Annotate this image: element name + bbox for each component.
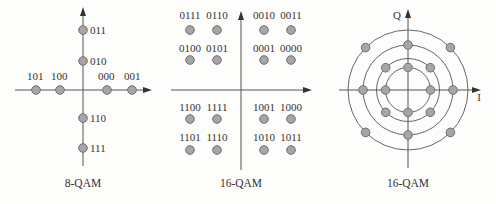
arrow-up-icon <box>80 7 86 16</box>
constellation-point <box>213 146 222 155</box>
point-label: 0000 <box>280 42 303 54</box>
point-label: 1010 <box>253 131 276 143</box>
point-label: 000 <box>98 70 115 82</box>
point-label: 101 <box>27 70 44 82</box>
arrow-up-icon <box>238 11 244 20</box>
arrow-right-icon <box>303 87 312 93</box>
diagram-16qam-circular: Q I 16-QAM <box>339 9 481 189</box>
point-label: 110 <box>90 112 107 124</box>
constellation-point <box>213 26 222 35</box>
arrow-up-icon <box>405 9 411 18</box>
constellation-point <box>359 86 368 95</box>
constellation-point <box>404 63 413 72</box>
constellation-point <box>287 26 296 35</box>
constellation-point <box>79 57 88 66</box>
constellation-point <box>186 146 195 155</box>
constellation-point <box>426 63 435 72</box>
constellation-point <box>287 115 296 124</box>
point-label: 111 <box>90 142 106 154</box>
constellation-point <box>79 26 88 35</box>
point-label: 010 <box>90 55 107 67</box>
diagram-caption: 8-QAM <box>65 177 101 189</box>
point-label: 0001 <box>253 42 275 54</box>
point-label: 0010 <box>253 9 276 21</box>
constellation-point <box>128 86 137 95</box>
constellation-point <box>446 43 455 52</box>
constellation-point <box>260 146 269 155</box>
constellation-point <box>213 56 222 65</box>
arrow-right-icon <box>143 87 152 93</box>
constellation-point <box>79 144 88 153</box>
constellation-point <box>56 86 65 95</box>
q-axis-label: Q <box>393 9 401 21</box>
point-label: 1110 <box>206 131 228 143</box>
constellation-point <box>287 56 296 65</box>
constellation-point <box>213 115 222 124</box>
constellation-point <box>260 26 269 35</box>
constellation-point <box>426 86 435 95</box>
point-label: 1111 <box>207 101 228 113</box>
point-label: 1101 <box>179 131 201 143</box>
point-label: 100 <box>51 70 68 82</box>
constellation-point <box>260 115 269 124</box>
constellation-point <box>32 86 41 95</box>
constellation-point <box>79 114 88 123</box>
point-label: 0011 <box>280 9 302 21</box>
constellation-point <box>404 41 413 50</box>
constellation-point <box>381 108 390 117</box>
diagram-8qam: 011 010 101 100 000 001 110 111 8-QAM <box>15 7 152 189</box>
point-label: 0100 <box>179 42 202 54</box>
constellation-point <box>404 108 413 117</box>
diagram-16qam-square: 0111 0110 0010 0011 0100 0101 0001 0000 … <box>171 9 312 189</box>
constellation-point <box>260 56 269 65</box>
constellation-point <box>381 86 390 95</box>
point-label: 0110 <box>206 9 228 21</box>
point-label: 1000 <box>280 101 303 113</box>
diagram-caption: 16-QAM <box>387 177 429 189</box>
point-label: 1011 <box>280 131 302 143</box>
point-label: 011 <box>90 24 106 36</box>
constellation-point <box>381 63 390 72</box>
constellation-point <box>103 86 112 95</box>
i-axis-label: I <box>477 91 481 103</box>
point-label: 1100 <box>179 101 201 113</box>
diagram-caption: 16-QAM <box>220 177 262 189</box>
point-label: 0111 <box>179 9 200 21</box>
constellation-point <box>426 108 435 117</box>
point-label: 0101 <box>206 42 228 54</box>
constellation-point <box>186 56 195 65</box>
constellation-point <box>404 131 413 140</box>
point-label: 1001 <box>253 101 275 113</box>
constellation-point <box>446 128 455 137</box>
point-label: 001 <box>124 70 141 82</box>
constellation-point <box>361 128 370 137</box>
constellation-figure: 011 010 101 100 000 001 110 111 8-QAM 01… <box>0 0 496 204</box>
constellation-point <box>449 86 458 95</box>
constellation-point <box>361 43 370 52</box>
constellation-point <box>186 26 195 35</box>
constellation-point <box>287 146 296 155</box>
constellation-point <box>186 115 195 124</box>
